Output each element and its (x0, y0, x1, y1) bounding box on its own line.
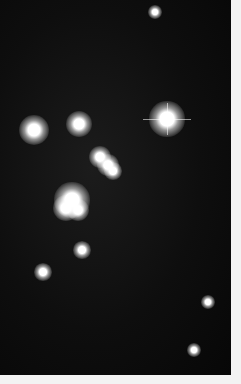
bright-star (66, 111, 92, 137)
bright-star (67, 199, 89, 221)
bright-star (34, 263, 52, 281)
bright-star (187, 343, 200, 356)
bright-star (104, 162, 122, 180)
diffraction-spike (167, 103, 168, 135)
photo-border (0, 0, 241, 384)
bright-star (73, 241, 91, 259)
star-cluster-photo (0, 0, 231, 375)
bright-star (201, 295, 214, 308)
bright-star (19, 115, 50, 146)
bright-star (148, 5, 161, 18)
